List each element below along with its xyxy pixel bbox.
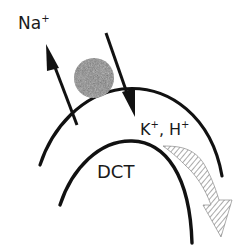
sodium-ion-text: Na <box>18 13 41 33</box>
hatched-flow-arrow <box>163 146 232 237</box>
dct-diagram <box>0 0 242 252</box>
inner-lumen-arc <box>60 141 192 243</box>
sodium-ion-label: Na+ <box>18 14 50 32</box>
potassium-ion-text: K <box>140 120 151 139</box>
sodium-charge: + <box>41 13 49 24</box>
ion-separator: , <box>159 120 169 139</box>
potassium-hydrogen-label: K+, H+ <box>140 120 189 138</box>
tubule-label: DCT <box>97 163 134 181</box>
hydrogen-charge: + <box>181 119 189 130</box>
transporter-channel <box>74 58 114 98</box>
hydrogen-ion-text: H <box>169 120 181 139</box>
potassium-charge: + <box>151 119 159 130</box>
sodium-reabsorption-arrow <box>46 44 77 125</box>
